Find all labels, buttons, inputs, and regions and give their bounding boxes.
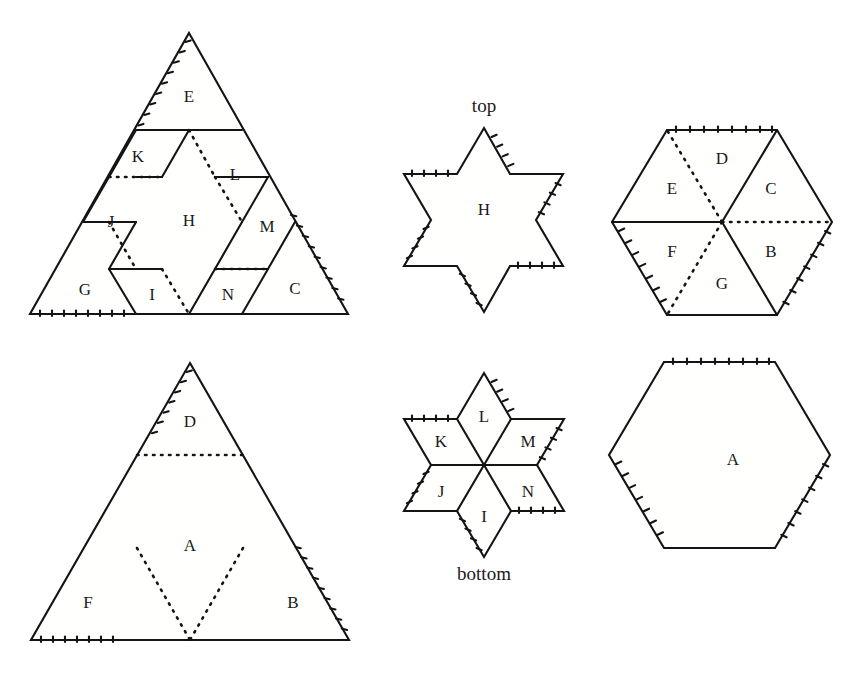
piece-label-C: C [289, 279, 300, 298]
dissection-figure: E K L J H M G I N C [0, 0, 860, 675]
hexagram-outline [404, 128, 563, 312]
piece-label-C: C [765, 179, 776, 198]
piece-label-B: B [287, 593, 298, 612]
piece-label-F: F [667, 242, 676, 261]
piece-label-E: E [667, 179, 677, 198]
piece-label-D: D [184, 412, 196, 431]
piece-label-M: M [259, 217, 274, 236]
piece-label-B: B [765, 242, 776, 261]
piece-label-D: D [716, 149, 728, 168]
piece-label-N: N [522, 482, 534, 501]
piece-label-I: I [481, 507, 487, 526]
piece-label-M: M [520, 432, 535, 451]
piece-label-A: A [184, 536, 197, 555]
piece-label-I: I [149, 285, 155, 304]
piece-label-L: L [230, 165, 240, 184]
panel-bottom-left-triangle: D A F B [31, 363, 349, 642]
piece-label-E: E [184, 87, 194, 106]
piece-label-J: J [438, 482, 445, 501]
piece-label-G: G [716, 274, 728, 293]
piece-label-H: H [183, 211, 195, 230]
triangle-outline [30, 33, 348, 314]
piece-label-N: N [222, 285, 234, 304]
panel-bottom-middle-star: L K M J N I bottom [404, 373, 564, 584]
panel-top-left-triangle: E K L J H M G I N C [30, 33, 348, 316]
hexagon-outline [609, 362, 830, 548]
piece-label-F: F [83, 593, 92, 612]
piece-label-A: A [727, 450, 740, 469]
figure-canvas: E K L J H M G I N C [0, 0, 860, 675]
caption-top: top [472, 95, 496, 116]
panel-top-middle-star: top [404, 95, 563, 312]
piece-label-G: G [79, 280, 91, 299]
caption-bottom: bottom [457, 563, 511, 584]
piece-label-L: L [479, 407, 489, 426]
piece-label-K: K [132, 147, 145, 166]
triangle-outline [31, 363, 349, 640]
panel-top-right-hexagon: D C E B F G [612, 127, 832, 316]
piece-label-K: K [435, 432, 448, 451]
piece-label-J: J [108, 212, 115, 231]
panel-bottom-right-hexagon: A [609, 359, 830, 549]
piece-label-H: H [478, 200, 490, 219]
